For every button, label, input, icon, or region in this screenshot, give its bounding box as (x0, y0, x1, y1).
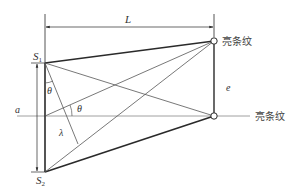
label-S1: S1 (33, 50, 43, 64)
bright-fringe-marker-bottom (211, 113, 217, 119)
label-L: L (124, 13, 131, 25)
label-bright-fringe-top: 亮条纹 (222, 35, 252, 47)
theta-arc-upper (45, 81, 53, 83)
label-bright-fringe-bottom: 亮条纹 (255, 110, 285, 122)
label-a: a (15, 104, 20, 115)
ray-S1-bottom (45, 63, 214, 116)
theta-arc-lower (70, 105, 72, 116)
label-e: e (226, 82, 231, 93)
label-theta-upper: θ (47, 85, 52, 96)
label-theta-lower: θ (77, 103, 82, 114)
bright-fringe-marker-top (211, 38, 217, 44)
label-lambda: λ (58, 127, 64, 138)
double-slit-diagram: L S1 S2 θ θ λ a e 亮条纹 亮条纹 (0, 0, 299, 190)
label-S2: S2 (36, 174, 46, 188)
